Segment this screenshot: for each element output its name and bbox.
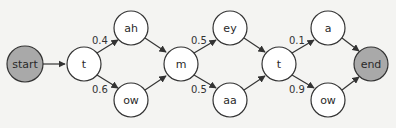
node-a: a	[311, 11, 345, 45]
node-ey: ey	[213, 11, 247, 45]
node-label-ah: ah	[124, 22, 138, 35]
node-label-ey: ey	[223, 22, 237, 35]
edge-ah-m	[145, 38, 166, 52]
prob-t-ow: 0.6	[92, 84, 108, 95]
node-ow2: ow	[311, 83, 345, 117]
node-label-start: start	[12, 58, 38, 71]
prob-m-aa: 0.5	[191, 84, 207, 95]
edge-ow-m	[145, 76, 166, 90]
node-ah: ah	[114, 11, 148, 45]
edge-ow2-end	[342, 77, 359, 90]
node-end: end	[354, 47, 388, 81]
node-label-t1: t	[82, 58, 87, 71]
node-start: start	[7, 46, 43, 82]
node-label-t2: t	[277, 58, 282, 71]
node-label-ow1: ow	[123, 94, 139, 107]
node-label-aa: aa	[223, 94, 236, 107]
edge-ey-t	[244, 38, 265, 52]
edge-aa-t	[244, 76, 265, 90]
prob-t-a: 0.1	[289, 35, 305, 46]
node-label-ow2: ow	[320, 94, 336, 107]
node-label-end: end	[361, 58, 382, 71]
node-t1: t	[67, 47, 101, 81]
prob-t-ow2: 0.9	[289, 84, 305, 95]
prob-m-ey: 0.5	[191, 35, 207, 46]
pronunciation-network-diagram: 0.4 0.6 0.5 0.5 0.1 0.9 start t ah ow m	[0, 0, 396, 128]
prob-t-ah: 0.4	[92, 35, 108, 46]
node-label-a: a	[325, 22, 332, 35]
edge-a-end	[342, 38, 359, 51]
node-ow1: ow	[114, 83, 148, 117]
node-m: m	[164, 47, 198, 81]
node-t2: t	[262, 47, 296, 81]
node-aa: aa	[213, 83, 247, 117]
node-label-m: m	[176, 58, 187, 71]
